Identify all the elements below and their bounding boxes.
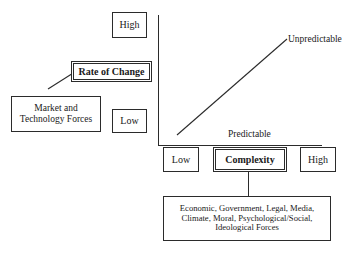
complexity-box: Complexity (213, 147, 287, 172)
diagram-canvas: High Low Rate of Change Market and Techn… (0, 0, 362, 272)
trend-line (177, 39, 287, 135)
rate-of-change-box: Rate of Change (71, 61, 152, 82)
horizontal-axis-high-label: High (308, 154, 328, 165)
horizontal-axis-high-box: High (300, 147, 336, 172)
vertical-axis-high-label: High (120, 19, 140, 30)
horizontal-axis-low-label: Low (172, 154, 190, 165)
predictable-label: Predictable (228, 129, 271, 139)
vertical-axis-low-box: Low (112, 109, 147, 133)
vertical-axis-low-label: Low (120, 115, 138, 126)
vertical-axis-high-box: High (112, 12, 147, 38)
rate-of-change-label: Rate of Change (78, 66, 144, 77)
complexity-forces-list-box: Economic, Government, Legal, Media, Clim… (163, 196, 331, 241)
complexity-label: Complexity (225, 154, 274, 165)
unpredictable-label: Unpredictable (288, 34, 342, 44)
complexity-connector-line (248, 172, 249, 196)
horizontal-axis-low-box: Low (163, 147, 199, 172)
market-forces-line-2: Technology Forces (20, 114, 92, 125)
forces-list-line-3: Ideological Forces (180, 223, 314, 233)
market-technology-forces-box: Market and Technology Forces (11, 96, 101, 132)
market-forces-line-1: Market and (20, 103, 92, 114)
